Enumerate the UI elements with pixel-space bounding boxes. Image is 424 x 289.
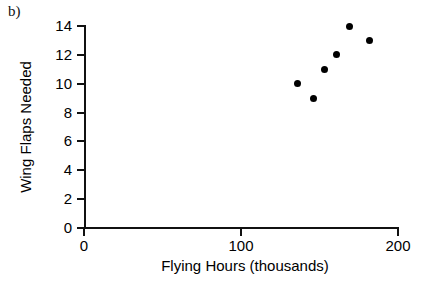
y-axis-tick-label: 12 (40, 47, 72, 62)
x-axis-tick-label: 0 (59, 238, 109, 253)
y-axis-tick-label: 4 (40, 162, 72, 177)
plot-area (84, 26, 398, 228)
y-axis-tick-label: 6 (40, 133, 72, 148)
data-point (321, 66, 328, 73)
x-axis-tick (240, 229, 242, 236)
y-axis-tick (77, 169, 84, 171)
y-axis-tick (77, 25, 84, 27)
y-axis-title-container: Wing Flaps Needed (14, 26, 36, 228)
panel-label: b) (8, 4, 21, 19)
data-point (310, 95, 317, 102)
x-axis-tick-label: 200 (373, 238, 423, 253)
data-point (366, 37, 373, 44)
data-point (346, 23, 353, 30)
y-axis-tick-label: 14 (40, 18, 72, 33)
data-point (333, 51, 340, 58)
x-axis-tick (83, 229, 85, 236)
y-axis-tick (77, 54, 84, 56)
scatter-plot-figure: b) Wing Flaps Needed Flying Hours (thous… (0, 0, 424, 289)
x-axis-tick (397, 229, 399, 236)
y-axis-tick (77, 140, 84, 142)
y-axis-tick-label: 0 (40, 220, 72, 235)
y-axis-tick (77, 83, 84, 85)
y-axis-tick-label: 10 (40, 76, 72, 91)
x-axis-title: Flying Hours (thousands) (0, 258, 424, 275)
y-axis-tick (77, 198, 84, 200)
y-axis-tick (77, 112, 84, 114)
x-axis-tick-label: 100 (216, 238, 266, 253)
y-axis-tick-label: 8 (40, 105, 72, 120)
y-axis-title: Wing Flaps Needed (18, 61, 33, 193)
data-point (294, 80, 301, 87)
y-axis-tick-label: 2 (40, 191, 72, 206)
